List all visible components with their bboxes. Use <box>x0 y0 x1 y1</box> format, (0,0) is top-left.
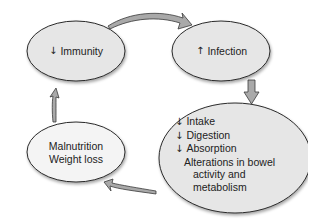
gi-item-alterations-cont: activity and <box>175 168 275 181</box>
gi-item-label: Digestion <box>186 129 230 141</box>
down-arrow-icon: ↓ <box>49 45 57 58</box>
gi-item-label: activity and <box>193 168 246 180</box>
up-arrow-icon: ↑ <box>196 45 204 58</box>
down-arrow-icon: ↓ <box>175 130 183 141</box>
node-malnutrition-line-2: Weight loss <box>47 153 105 166</box>
arrow-immunity-to-infection <box>108 13 192 29</box>
arrow-infection-to-gi <box>244 80 259 104</box>
arrow-gi-to-malnutrition <box>104 179 156 194</box>
gi-item-absorption: ↓Absorption <box>175 142 275 156</box>
node-infection: ↑ Infection <box>196 45 247 58</box>
gi-item-label: Intake <box>186 115 215 127</box>
gi-item-alterations: Alterations in bowel <box>175 156 275 169</box>
node-infection-label: Infection <box>207 45 247 58</box>
gi-item-label: Absorption <box>186 142 236 154</box>
gi-item-alterations-cont2: metabolism <box>175 181 275 194</box>
node-gi-effects: ↓Intake ↓Digestion ↓Absorption Alteratio… <box>175 115 275 193</box>
gi-item-digestion: ↓Digestion <box>175 129 275 143</box>
node-malnutrition: Malnutrition Weight loss <box>47 140 105 165</box>
gi-item-intake: ↓Intake <box>175 115 275 129</box>
down-arrow-icon: ↓ <box>175 116 183 127</box>
down-arrow-icon: ↓ <box>175 143 183 154</box>
arrow-malnutrition-to-immunity <box>50 88 59 122</box>
node-malnutrition-line-1: Malnutrition <box>47 140 105 153</box>
node-immunity-label: Immunity <box>60 45 103 58</box>
gi-item-label: Alterations in bowel <box>184 156 275 168</box>
gi-item-label: metabolism <box>193 181 247 193</box>
node-immunity: ↓ Immunity <box>49 45 103 58</box>
